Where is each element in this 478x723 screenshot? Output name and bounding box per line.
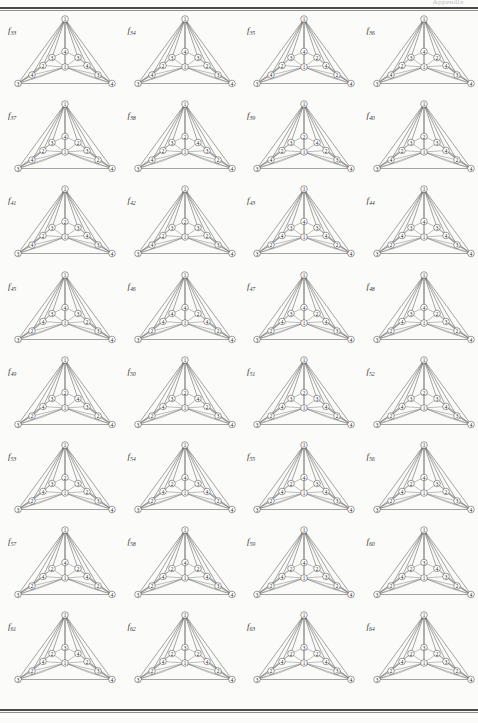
graph-node: 1 [181, 527, 188, 534]
graph-edge [65, 152, 112, 169]
graph-node-label: 2 [150, 328, 153, 334]
graph-node-label: 4 [422, 219, 425, 225]
graph-node-label: 4 [316, 140, 319, 146]
graph-node-label: 2 [150, 583, 153, 589]
graph-node: 4 [40, 573, 47, 580]
graph-node-label: 2 [196, 651, 199, 657]
graph-node-label: 3 [435, 225, 438, 231]
graph-node: 3 [214, 583, 221, 590]
graph-edge [198, 654, 232, 680]
graph-node-label: 4 [111, 592, 114, 598]
graph-node: 4 [168, 310, 175, 317]
graph-node-label: 1 [303, 235, 306, 241]
graph-edge [304, 104, 351, 169]
graph-node: 4 [467, 336, 474, 343]
graph-edge [257, 398, 291, 424]
graph-node: 2 [29, 327, 36, 334]
graph-node: 3 [62, 645, 69, 652]
graph-node: 4 [75, 395, 82, 402]
graph-node-label: 3 [136, 336, 139, 342]
graph-node-label: 4 [325, 318, 328, 324]
graph-node-label: 3 [325, 574, 328, 580]
graph-node: 4 [62, 559, 69, 566]
graph-edge [377, 143, 411, 169]
graph-node-label: 1 [183, 613, 186, 619]
graph-node-label: 2 [316, 566, 319, 572]
graph-node: 1 [62, 234, 69, 241]
graph-node: 1 [420, 149, 427, 156]
graph-node-label: 2 [216, 328, 219, 334]
graph-node-label: 4 [170, 310, 173, 316]
graph-diagram: 13414224422 [12, 524, 118, 606]
graph-edge [185, 104, 232, 169]
graph-node-label: 1 [183, 357, 186, 363]
graph-node: 2 [334, 72, 341, 79]
graph-node: 4 [279, 659, 286, 666]
graph-node-label: 4 [469, 592, 472, 598]
graph-node-label: 4 [389, 157, 392, 163]
graph-edge [377, 615, 424, 680]
graph-node: 2 [159, 62, 166, 69]
graph-edge [185, 19, 232, 84]
graph-node: 3 [49, 225, 56, 232]
graph-node-label: 3 [290, 225, 293, 231]
graph-node: 3 [323, 573, 330, 580]
graph-diagram: 13412332243 [132, 183, 238, 265]
graph-node: 4 [398, 233, 405, 240]
graph-diagram: 13414322443 [371, 13, 477, 95]
graph-node: 2 [387, 412, 394, 419]
graph-edge [18, 104, 65, 169]
graph-node-label: 2 [196, 310, 199, 316]
graph-edge [138, 228, 172, 254]
graph-edge [377, 67, 424, 84]
graph-node-label: 4 [42, 318, 45, 324]
graph-node: 4 [279, 403, 286, 410]
graph-edge [304, 237, 351, 254]
graph-node: 2 [387, 583, 394, 590]
figure-cell: f6313413224423 [239, 607, 359, 692]
graph-node: 2 [288, 480, 295, 487]
graph-node: 1 [420, 612, 427, 619]
graph-edge [18, 578, 65, 595]
graph-node: 2 [387, 498, 394, 505]
graph-edge [185, 360, 232, 425]
graph-node: 1 [420, 660, 427, 667]
page-folio: Appendix [432, 0, 464, 6]
graph-edge [437, 228, 471, 254]
graph-node-label: 4 [350, 166, 353, 172]
graph-edge [317, 58, 351, 84]
graph-node-label: 1 [64, 405, 67, 411]
graph-node: 1 [62, 356, 69, 363]
graph-node-label: 4 [350, 336, 353, 342]
graph-node-label: 2 [389, 243, 392, 249]
graph-node: 2 [433, 310, 440, 317]
graph-edge [424, 578, 471, 595]
graph-node-label: 2 [183, 389, 186, 395]
graph-node: 3 [15, 506, 22, 513]
graph-node-label: 3 [455, 498, 458, 504]
graph-node-label: 2 [290, 651, 293, 657]
graph-node-label: 4 [161, 403, 164, 409]
graph-edge [257, 313, 291, 339]
graph-node-label: 4 [303, 475, 306, 481]
graph-node-label: 2 [336, 413, 339, 419]
graph-node-label: 2 [325, 148, 328, 154]
graph-node-label: 4 [111, 421, 114, 427]
graph-node: 2 [62, 219, 69, 226]
graph-node-label: 2 [77, 140, 80, 146]
graph-node-label: 2 [389, 669, 392, 675]
graph-node-label: 3 [51, 481, 54, 487]
graph-node-label: 2 [205, 233, 208, 239]
graph-node: 1 [301, 64, 308, 71]
graph-node: 4 [75, 651, 82, 658]
graph-node: 2 [84, 318, 91, 325]
graph-node: 1 [181, 101, 188, 108]
graph-node-label: 1 [303, 187, 306, 193]
graph-node: 1 [181, 575, 188, 582]
graph-node-label: 4 [400, 233, 403, 239]
graph-node-label: 2 [435, 651, 438, 657]
graph-node: 3 [442, 573, 449, 580]
graph-node-label: 1 [303, 575, 306, 581]
figure-cell: f4513414334223 [0, 267, 120, 352]
graph-edge [377, 483, 411, 509]
